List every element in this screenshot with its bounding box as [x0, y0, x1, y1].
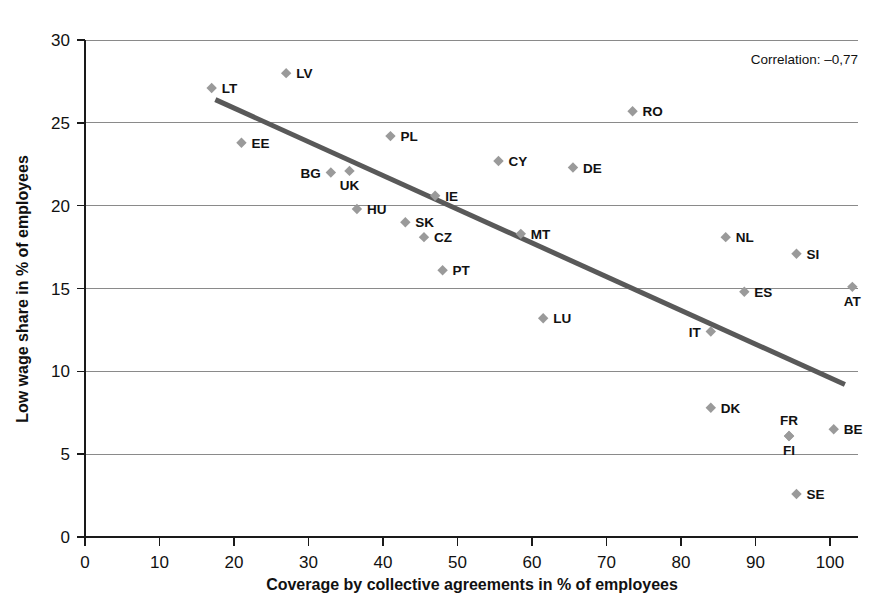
data-point-label-BE: BE: [844, 422, 863, 437]
y-tick-label-15: 15: [51, 280, 70, 299]
chart-background: [0, 0, 890, 606]
data-point-label-FR: FR: [780, 413, 798, 428]
data-point-label-AT: AT: [844, 294, 862, 309]
x-tick-label-30: 30: [299, 553, 318, 572]
data-point-label-PT: PT: [453, 263, 471, 278]
x-axis-title: Coverage by collective agreements in % o…: [266, 576, 678, 593]
data-point-label-SE: SE: [806, 487, 824, 502]
y-tick-label-0: 0: [61, 528, 70, 547]
y-tick-label-10: 10: [51, 362, 70, 381]
x-tick-label-40: 40: [374, 553, 393, 572]
data-point-label-DE: DE: [583, 161, 602, 176]
data-point-label-FI: FI: [783, 443, 795, 458]
x-tick-label-50: 50: [448, 553, 467, 572]
data-point-label-IE: IE: [445, 189, 458, 204]
x-tick-label-60: 60: [523, 553, 542, 572]
data-point-label-SK: SK: [415, 215, 434, 230]
data-point-label-PL: PL: [400, 129, 417, 144]
x-tick-label-90: 90: [746, 553, 765, 572]
x-tick-label-100: 100: [816, 553, 844, 572]
data-point-label-CZ: CZ: [434, 230, 452, 245]
x-tick-label-20: 20: [225, 553, 244, 572]
data-point-label-MT: MT: [531, 227, 551, 242]
data-point-label-LT: LT: [222, 81, 238, 96]
y-tick-label-30: 30: [51, 31, 70, 50]
chart-svg: 051015202530 0102030405060708090100 LTLV…: [0, 0, 890, 606]
data-point-label-HU: HU: [367, 202, 387, 217]
data-point-label-UK: UK: [340, 178, 360, 193]
data-point-label-NL: NL: [736, 230, 754, 245]
scatter-chart-figure: 051015202530 0102030405060708090100 LTLV…: [0, 0, 890, 606]
correlation-annotation: Correlation: –0,77: [751, 52, 858, 67]
y-tick-label-25: 25: [51, 114, 70, 133]
x-tick-label-70: 70: [597, 553, 616, 572]
y-tick-label-5: 5: [61, 445, 70, 464]
data-point-label-EE: EE: [251, 136, 269, 151]
x-tick-label-0: 0: [80, 553, 89, 572]
x-tick-label-80: 80: [672, 553, 691, 572]
data-point-label-DK: DK: [721, 401, 741, 416]
data-point-label-IT: IT: [689, 325, 702, 340]
data-point-label-BG: BG: [301, 166, 321, 181]
data-point-label-LU: LU: [553, 311, 571, 326]
data-point-label-CY: CY: [508, 154, 527, 169]
data-point-label-LV: LV: [296, 66, 312, 81]
data-point-label-SI: SI: [806, 247, 819, 262]
x-tick-label-10: 10: [150, 553, 169, 572]
y-axis-title: Low wage share in % of employees: [14, 155, 31, 423]
data-point-label-ES: ES: [754, 285, 772, 300]
data-point-label-RO: RO: [643, 104, 663, 119]
y-tick-label-20: 20: [51, 197, 70, 216]
